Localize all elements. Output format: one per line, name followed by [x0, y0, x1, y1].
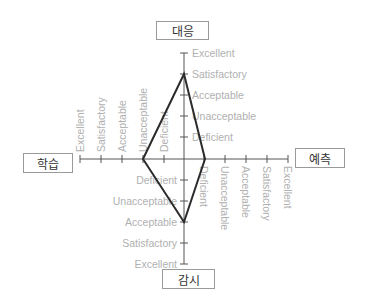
bottom-level-3: Acceptable	[125, 216, 177, 228]
top-level-2: Unacceptable	[192, 110, 256, 122]
right-level-4: Satisfactory	[261, 166, 273, 222]
top-level-5: Excellent	[192, 47, 235, 59]
axis-label-bottom: 감시	[162, 269, 215, 289]
axis-label-left: 학습	[23, 153, 73, 173]
top-level-3: Acceptable	[192, 89, 244, 101]
left-level-3: Acceptable	[116, 100, 128, 152]
top-level-4: Satisfactory	[192, 68, 248, 80]
bottom-level-4: Satisfactory	[122, 237, 178, 249]
right-level-3: Acceptable	[240, 166, 252, 218]
left-level-5: Excellent	[74, 109, 86, 152]
left-level-2: Unacceptable	[137, 88, 149, 152]
right-level-2: Unacceptable	[219, 166, 231, 230]
left-level-4: Satisfactory	[95, 96, 107, 152]
axis-label-right: 예측	[295, 148, 345, 168]
axis-label-top: 대응	[156, 21, 209, 40]
right-level-5: Excellent	[282, 166, 294, 209]
